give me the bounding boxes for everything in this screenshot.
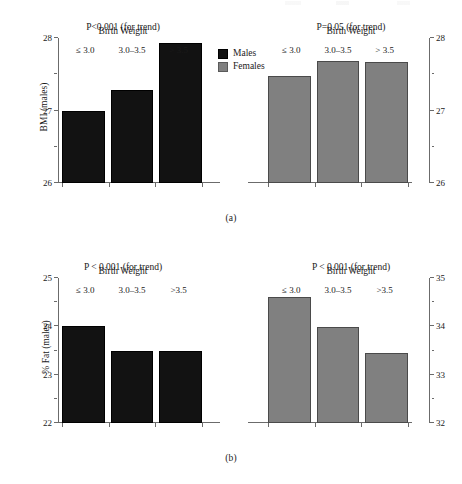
x-axis-tick-label: 3.0–3.5 (325, 45, 352, 55)
y-axis-tick-label: 27 (43, 107, 52, 116)
x-axis-tick (408, 183, 409, 187)
y-axis-tick (430, 422, 434, 423)
chart-a-females-x-axis-title: Birth Weight (246, 26, 456, 36)
y-axis-minor-tick (54, 301, 57, 302)
y-axis-tick (54, 325, 58, 326)
plot-area-a-females: 262728≤ 3.03.0–3.5> 3.5 (268, 38, 408, 183)
bar-3 (365, 62, 408, 183)
bar-3 (159, 43, 202, 183)
legend-swatch-males-icon (218, 49, 228, 59)
y-axis-tick (54, 110, 58, 111)
chart-b-females-x-axis-title: Birth Weight (246, 266, 456, 276)
legend-swatch-females-icon (218, 62, 228, 72)
bar-group (268, 38, 408, 183)
y-axis-tick (54, 422, 58, 423)
bar-1 (62, 111, 105, 184)
y-axis-tick (430, 277, 434, 278)
y-axis-minor-tick (54, 73, 57, 74)
x-axis-tick (361, 183, 362, 187)
bar-group (268, 278, 408, 423)
y-axis-tick (54, 37, 58, 38)
bar-2 (111, 90, 154, 183)
legend-entry-males: Males (218, 48, 265, 60)
x-axis-tick (361, 423, 362, 427)
x-axis-tick (109, 423, 110, 427)
x-axis-tick (408, 423, 409, 427)
y-axis-tick (54, 277, 58, 278)
y-axis-tick-label: 33 (436, 371, 445, 380)
x-axis-tick-label: > 3.5 (375, 45, 394, 55)
panel-b: P < 0.001 (for trend) % Fat (males) 2223… (0, 244, 462, 484)
x-axis-tick (62, 423, 63, 427)
y-axis-tick-label: 23 (43, 371, 52, 380)
legend-panel-a: Males Females (218, 48, 265, 74)
legend-entry-females: Females (218, 61, 265, 73)
panel-b-caption: (b) (0, 453, 462, 463)
figure-bmi-fat-by-birth-weight: P<0.001 (for trend) BMI (males) 262728≤ … (0, 0, 462, 484)
y-axis-line (58, 38, 59, 183)
plot-area-b-males: 22232425≤ 3.03.0–3.5>3.5 (62, 278, 202, 423)
y-axis-minor-tick (432, 398, 435, 399)
y-axis-tick (430, 37, 434, 38)
plot-area-a-males: 262728≤ 3.03.0–3.5> 3.5 (62, 38, 202, 183)
x-axis-tick-label: 3.0–3.5 (119, 45, 146, 55)
y-axis-minor-tick (432, 73, 435, 74)
y-axis-tick-label: 24 (43, 322, 52, 331)
y-axis-minor-tick (432, 146, 435, 147)
y-axis-minor-tick (432, 301, 435, 302)
plot-area-b-females: 32333435≤ 3.03.0–3.5>3.5 (268, 278, 408, 423)
panel-a-caption: (a) (0, 213, 462, 223)
y-axis-line (429, 38, 430, 183)
y-axis-tick (430, 110, 434, 111)
x-axis-tick (268, 423, 269, 427)
y-axis-tick-label: 26 (43, 179, 52, 188)
x-axis-tick (109, 183, 110, 187)
legend-label-females: Females (233, 62, 265, 72)
y-axis-minor-tick (432, 350, 435, 351)
x-axis-tick-label: ≤ 3.0 (282, 45, 300, 55)
y-axis-line (429, 278, 430, 423)
y-axis-tick-label: 34 (436, 322, 445, 331)
chart-b-males-fat: P < 0.001 (for trend) % Fat (males) 2223… (18, 244, 228, 449)
y-axis-tick-label: 26 (436, 179, 445, 188)
x-axis-tick (315, 423, 316, 427)
x-axis-tick (62, 183, 63, 187)
bar-1 (268, 297, 311, 423)
y-axis-tick (54, 374, 58, 375)
chart-a-males-bmi: P<0.001 (for trend) BMI (males) 262728≤ … (18, 4, 228, 209)
bar-1 (62, 326, 105, 423)
y-axis-minor-tick (54, 146, 57, 147)
y-axis-minor-tick (54, 398, 57, 399)
x-axis-tick-label: > 3.5 (169, 45, 188, 55)
chart-a-males-x-axis-title: Birth Weight (18, 26, 228, 36)
x-axis-tick-label: >3.5 (376, 285, 392, 295)
y-axis-tick (54, 182, 58, 183)
y-axis-tick-label: 27 (436, 107, 445, 116)
chart-b-females-fat: P < 0.001 (for trend) % Fat (female) 323… (246, 244, 456, 449)
x-axis-tick-label: 3.0–3.5 (119, 285, 146, 295)
y-axis-tick (430, 374, 434, 375)
x-axis-tick-label: 3.0–3.5 (325, 285, 352, 295)
y-axis-tick-label: 32 (436, 419, 445, 428)
bar-1 (268, 76, 311, 183)
chart-b-males-x-axis-title: Birth Weight (18, 266, 228, 276)
bar-3 (159, 351, 202, 424)
x-axis-tick-label: ≤ 3.0 (76, 285, 94, 295)
y-axis-tick-label: 22 (43, 419, 52, 428)
bar-2 (317, 327, 360, 423)
x-axis-tick (155, 423, 156, 427)
panel-a: P<0.001 (for trend) BMI (males) 262728≤ … (0, 4, 462, 244)
x-axis-tick (315, 183, 316, 187)
x-axis-tick-label: ≤ 3.0 (76, 45, 94, 55)
x-axis-tick-label: >3.5 (170, 285, 186, 295)
legend-label-males: Males (233, 49, 256, 59)
y-axis-tick (430, 325, 434, 326)
chart-a-females-bmi: P=0.05 (for trend) BMI (females) 262728≤… (246, 4, 456, 209)
bar-group (62, 38, 202, 183)
x-axis-tick (155, 183, 156, 187)
x-axis-tick (202, 423, 203, 427)
bar-group (62, 278, 202, 423)
bar-3 (365, 353, 408, 423)
y-axis-tick (430, 182, 434, 183)
x-axis-tick (268, 183, 269, 187)
